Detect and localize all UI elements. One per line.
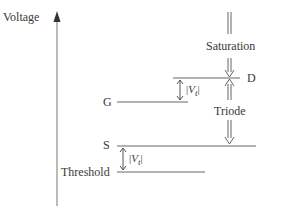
triode-up-arrow-icon <box>225 79 234 100</box>
gate-label: G <box>103 95 112 109</box>
vt-symbol: V <box>131 152 138 164</box>
vt-upper-arrow-icon <box>177 80 183 100</box>
mosfet-voltage-diagram: Voltage Saturation Triode D G S Threshol… <box>0 0 281 214</box>
voltage-axis <box>54 11 61 206</box>
vt-lower-arrow-icon <box>120 148 126 170</box>
voltage-axis-label: Voltage <box>3 10 39 24</box>
triode-down-arrow-icon <box>225 120 234 144</box>
vt-upper-label: |Vt| <box>186 82 200 100</box>
vt-symbol: V <box>188 83 195 95</box>
drain-label: D <box>247 71 256 85</box>
abs-close: | <box>140 152 142 164</box>
vt-lower-label: |Vt| <box>129 151 143 169</box>
source-label: S <box>103 138 110 152</box>
threshold-label: Threshold <box>61 165 110 179</box>
saturation-top-double-line-icon <box>228 12 231 34</box>
triode-region-label: Triode <box>214 104 246 118</box>
abs-close: | <box>197 83 199 95</box>
saturation-down-arrow-icon <box>225 58 234 77</box>
saturation-region-label: Saturation <box>206 39 255 53</box>
